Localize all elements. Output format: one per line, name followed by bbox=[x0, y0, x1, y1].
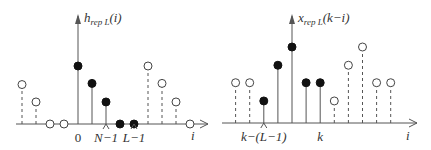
markers: k−(L−1)k bbox=[241, 123, 323, 144]
sample-dot-open bbox=[32, 98, 40, 106]
sample-dot-open bbox=[46, 120, 54, 128]
sample-dot-filled bbox=[102, 98, 110, 106]
sample-dot-filled bbox=[88, 79, 96, 87]
tick-caret-icon bbox=[103, 124, 109, 129]
sample-dot-filled bbox=[260, 97, 268, 105]
y-axis-label: hrep L(i) bbox=[84, 10, 122, 27]
sample-dot-open bbox=[330, 97, 338, 105]
sample-dot-open bbox=[158, 79, 166, 87]
sample-dot-filled bbox=[274, 61, 282, 69]
sample-dot-filled bbox=[316, 79, 324, 87]
sample-dot-open bbox=[172, 98, 180, 106]
panel-x-rep: xrep L(k−i) i k−(L−1)k bbox=[222, 10, 417, 144]
sample-dot-open bbox=[387, 79, 395, 87]
sample-dot-open bbox=[18, 81, 26, 89]
samples bbox=[18, 62, 194, 128]
y-axis-arrow-icon bbox=[289, 14, 295, 24]
sample-dot-open bbox=[186, 120, 194, 128]
sample-dot-open bbox=[144, 62, 152, 70]
samples bbox=[232, 43, 395, 123]
y-label-arg: (k−i) bbox=[323, 10, 350, 25]
sample-dot-filled bbox=[74, 62, 82, 70]
panel-h-rep: hrep L(i) i 0N−1L−1 bbox=[16, 10, 208, 145]
y-label-arg: (i) bbox=[109, 10, 121, 25]
y-label-sub: rep L bbox=[304, 17, 323, 27]
sample-dot-filled bbox=[288, 43, 296, 51]
x-axis-label: i bbox=[406, 128, 410, 143]
y-axis-arrow-icon bbox=[75, 14, 81, 24]
y-axis-label: xrep L(k−i) bbox=[297, 10, 350, 27]
sample-dot-open bbox=[232, 79, 240, 87]
tick-label: L−1 bbox=[122, 130, 146, 145]
tick-caret-icon bbox=[261, 123, 267, 128]
sample-dot-open bbox=[359, 43, 367, 51]
sample-dot-open bbox=[373, 79, 381, 87]
x-axis-label: i bbox=[191, 128, 195, 143]
sample-dot-open bbox=[246, 79, 254, 87]
sample-dot-open bbox=[344, 61, 352, 69]
periodic-extension-diagram: hrep L(i) i 0N−1L−1 xrep L(k−i) i k−(L−1… bbox=[0, 0, 431, 150]
sample-dot-filled bbox=[302, 79, 310, 87]
sample-dot-open bbox=[60, 120, 68, 128]
tick-label: k−(L−1) bbox=[241, 129, 287, 144]
tick-label: k bbox=[317, 129, 323, 144]
tick-label: 0 bbox=[75, 130, 82, 145]
tick-label: N−1 bbox=[93, 130, 118, 145]
y-label-sub: rep L bbox=[91, 17, 110, 27]
sample-dot-filled bbox=[116, 120, 124, 128]
